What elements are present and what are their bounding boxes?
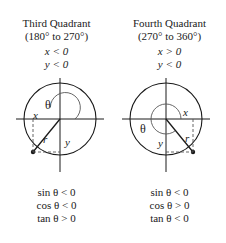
panel-title-third: Third Quadrant [0,17,113,30]
tan-sign-fourth: tan θ < 0 [113,212,226,225]
quadrant-panel-fourth: Fourth Quadrant (270° to 360°) x > 0 y <… [113,0,226,243]
label-x-fourth: x [183,107,188,118]
cos-sign-third: cos θ < 0 [0,199,113,212]
cos-sign-fourth: cos θ > 0 [113,199,226,212]
unit-circle-diagram-fourth: θ x r y [113,70,226,180]
label-y-third: y [65,137,70,148]
unit-circle-svg-third [0,70,113,180]
sin-sign-third: sin θ < 0 [0,186,113,199]
label-r-fourth: r [185,133,189,144]
label-theta-fourth: θ [140,124,146,135]
panel-title-fourth: Fourth Quadrant [113,17,226,30]
panel-x-sign-fourth: x > 0 [113,45,226,58]
label-r-third: r [43,134,47,145]
label-y-fourth: y [158,138,163,149]
label-theta-third: θ [45,100,51,111]
panel-x-sign-third: x < 0 [0,45,113,58]
tan-sign-third: tan θ > 0 [0,212,113,225]
quadrant-panel-third: Third Quadrant (180° to 270°) x < 0 y < … [0,0,113,243]
unit-circle-diagram-third: θ x r y [0,70,113,180]
label-x-third: x [33,110,38,121]
angle-arc [50,93,80,119]
unit-circle-svg-fourth [113,70,226,180]
sin-sign-fourth: sin θ < 0 [113,186,226,199]
panel-range-fourth: (270° to 360°) [113,30,226,43]
panel-range-third: (180° to 270°) [0,30,113,43]
